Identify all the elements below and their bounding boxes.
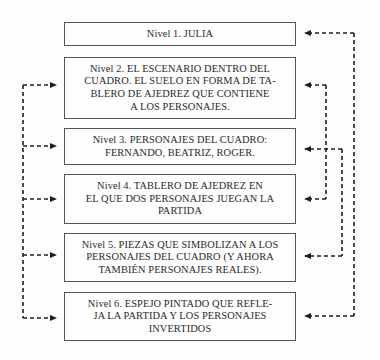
connector-arrows (0, 0, 380, 360)
